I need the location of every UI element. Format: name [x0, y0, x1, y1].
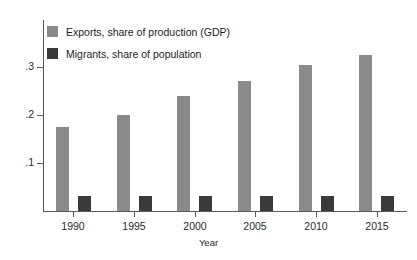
bar: [117, 115, 130, 211]
bar: [78, 196, 91, 211]
legend-swatch-exports-icon: [47, 26, 58, 37]
bar: [238, 81, 251, 211]
x-axis-title: Year: [0, 237, 417, 248]
bar: [139, 196, 152, 211]
y-axis-tick-label: .2: [12, 108, 34, 120]
legend-label-migrants: Migrants, share of population: [66, 48, 201, 60]
bar: [381, 196, 394, 211]
x-axis-tick-label: 1990: [43, 220, 103, 232]
chart-legend: Exports, share of production (GDP) Migra…: [47, 22, 230, 66]
bar: [199, 196, 212, 211]
bar: [359, 55, 372, 211]
y-axis-tick-label: .1: [12, 156, 34, 168]
x-axis-tick-label: 1995: [104, 220, 164, 232]
bar: [299, 65, 312, 211]
x-axis-line: [43, 211, 407, 212]
x-axis-tick: [195, 212, 196, 217]
y-axis-tick: [37, 163, 43, 164]
bar: [321, 196, 334, 211]
bar: [177, 96, 190, 211]
legend-label-exports: Exports, share of production (GDP): [66, 26, 230, 38]
y-axis-tick-label: .3: [12, 60, 34, 72]
y-axis-tick: [37, 115, 43, 116]
x-axis-tick: [255, 212, 256, 217]
x-axis-tick-label: 2015: [347, 220, 407, 232]
x-axis-tick: [73, 212, 74, 217]
legend-swatch-migrants-icon: [47, 48, 58, 59]
y-axis-tick: [37, 67, 43, 68]
bar: [56, 127, 69, 211]
bar-chart: .1.2.3 199019952000200520102015 Year Exp…: [0, 0, 417, 260]
x-axis-tick: [134, 212, 135, 217]
x-axis-tick: [377, 212, 378, 217]
y-axis-line: [43, 20, 44, 212]
bar: [260, 196, 273, 211]
x-axis-tick-label: 2010: [286, 220, 346, 232]
x-axis-tick-label: 2005: [225, 220, 285, 232]
x-axis-tick: [316, 212, 317, 217]
legend-item-migrants: Migrants, share of population: [47, 44, 230, 63]
legend-item-exports: Exports, share of production (GDP): [47, 22, 230, 41]
x-axis-tick-label: 2000: [165, 220, 225, 232]
